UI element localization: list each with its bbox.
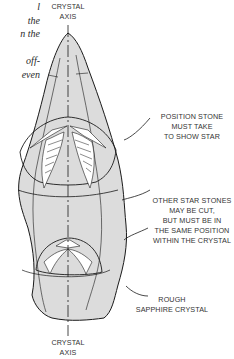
- label-other-star-stones: OTHER STAR STONES MAY BE CUT, BUT MUST B…: [150, 196, 234, 246]
- label-crystal-axis-bottom: CRYSTAL AXIS: [48, 338, 88, 358]
- label-position-stone: POSITION STONE MUST TAKE TO SHOW STAR: [150, 112, 234, 142]
- label-crystal-axis-top: CRYSTAL AXIS: [48, 2, 88, 22]
- label-rough-sapphire: ROUGH SAPPHIRE CRYSTAL: [130, 295, 214, 315]
